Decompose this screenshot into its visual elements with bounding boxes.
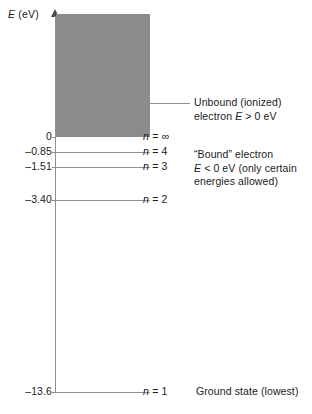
level-label-n1: n = 1	[143, 385, 168, 397]
ytick-label-n1: –13.6	[25, 385, 52, 397]
continuum-band	[56, 14, 150, 137]
annotation-ground-state: Ground state (lowest)	[196, 385, 298, 399]
axis-unit: (eV)	[18, 8, 39, 20]
annotation-unbound-line2: electron E > 0 eV	[194, 110, 282, 124]
energy-level-line-n1	[56, 392, 150, 393]
annotation-unbound: Unbound (ionized) electron E > 0 eV	[194, 96, 282, 123]
annotation-bound-line3: energies allowed)	[194, 175, 297, 189]
annotation-bound-line2: E < 0 eV (only certain	[194, 162, 297, 176]
tick-mark-n1	[52, 392, 56, 393]
axis-symbol: E	[8, 8, 15, 20]
annotation-unbound-line1: Unbound (ionized)	[194, 96, 282, 110]
tick-mark-zero	[52, 137, 56, 138]
ytick-label-n2: –3.40	[25, 193, 52, 205]
axis-label: E (eV)	[8, 8, 39, 20]
level-label-n2: n = 2	[143, 193, 168, 205]
level-label-n4: n = 4	[143, 145, 168, 157]
tick-mark-n3	[52, 167, 56, 168]
ytick-label-n3: –1.51	[25, 160, 52, 172]
energy-level-diagram: E (eV) 0 n = ∞ –0.85 n = 4 –1.51 n = 3 –…	[0, 0, 312, 414]
annotation-bound: “Bound” electron E < 0 eV (only certain …	[194, 148, 297, 189]
annotation-bound-line1: “Bound” electron	[194, 148, 297, 162]
tick-mark-n2	[52, 200, 56, 201]
energy-level-line-n3	[56, 167, 150, 168]
energy-level-line-n2	[56, 200, 150, 201]
tick-mark-n4	[52, 152, 56, 153]
ytick-label-n4: –0.85	[25, 145, 52, 157]
leader-line	[145, 103, 190, 104]
ytick-label-zero: 0	[46, 130, 52, 142]
energy-level-line-n4	[56, 152, 150, 153]
level-label-n-infinity: n = ∞	[143, 130, 170, 142]
level-label-n3: n = 3	[143, 160, 168, 172]
